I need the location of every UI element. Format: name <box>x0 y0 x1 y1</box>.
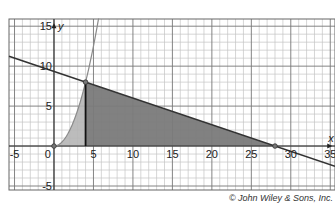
x-tick-label: 5 <box>90 148 96 160</box>
chart: -505101520253035-551015 x y <box>0 0 335 205</box>
x-tick-label: 25 <box>245 148 257 160</box>
y-tick-label: 15 <box>40 20 52 32</box>
y-axis-arrow-icon <box>51 23 56 28</box>
y-tick-label: -5 <box>42 180 52 192</box>
x-tick-label: 10 <box>127 148 139 160</box>
y-tick-label: 5 <box>46 100 52 112</box>
x-tick-label: 15 <box>166 148 178 160</box>
x-axis-label: x <box>327 132 334 144</box>
x-tick-label: 35 <box>324 148 335 160</box>
x-tick-label: 30 <box>285 148 297 160</box>
y-tick-label: 10 <box>40 60 52 72</box>
x-tick-label: -5 <box>10 148 20 160</box>
x-tick-label: 0 <box>45 148 51 160</box>
copyright-credit: © John Wiley & Sons, Inc. <box>229 193 333 203</box>
x-tick-label: 20 <box>206 148 218 160</box>
grid-major <box>9 19 335 190</box>
data-point <box>83 80 88 85</box>
data-point <box>273 144 278 149</box>
data-point <box>52 144 57 149</box>
